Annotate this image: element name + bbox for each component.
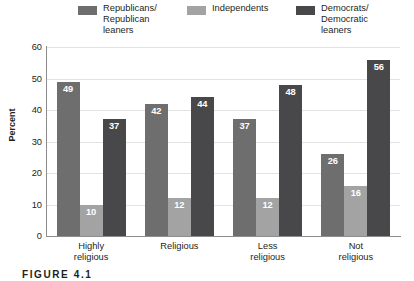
bar[interactable]: 49 [57,82,80,236]
bar[interactable]: 48 [279,85,302,236]
bar[interactable]: 26 [321,154,344,236]
chart-legend: Republicans/ Republican leaners Independ… [0,3,414,43]
bar-group: 371248 [224,47,312,236]
figure-container: Republicans/ Republican leaners Independ… [0,0,414,281]
bar[interactable]: 37 [103,119,126,236]
legend-swatch-democrats [296,6,315,15]
bar-value-label: 44 [191,99,214,109]
plot-area: 491037421244371248261656 [47,47,400,236]
bar[interactable]: 16 [344,186,367,236]
legend-label-republicans: Republicans/ Republican leaners [103,3,157,37]
bar-value-label: 12 [168,200,191,210]
x-axis-category-label: Less religious [224,241,312,263]
bar[interactable]: 37 [233,119,256,236]
bar[interactable]: 10 [80,205,103,237]
bar[interactable]: 44 [191,97,214,236]
y-axis-tick-label: 60 [2,42,42,52]
bar-group: 261656 [312,47,400,236]
y-axis-tick-label: 20 [2,168,42,178]
bar[interactable]: 12 [256,198,279,236]
bar-value-label: 26 [321,156,344,166]
legend-item-independents: Independents [187,3,268,15]
x-axis-category-label: Religious [135,241,223,252]
legend-item-republicans: Republicans/ Republican leaners [78,3,157,37]
legend-item-democrats: Democrats/ Democratic leaners [296,3,369,37]
bar-value-label: 16 [344,188,367,198]
legend-swatch-republicans [78,6,97,15]
bar-value-label: 12 [256,200,279,210]
bar[interactable]: 56 [367,60,390,236]
bar[interactable]: 42 [145,104,168,236]
y-axis-tick-label: 50 [2,74,42,84]
legend-label-democrats: Democrats/ Democratic leaners [321,3,369,37]
bar-value-label: 37 [103,121,126,131]
bar[interactable]: 12 [168,198,191,236]
y-axis-ticks: 0102030405060 [0,47,42,236]
bar-value-label: 56 [367,62,390,72]
y-axis-tick-label: 10 [2,200,42,210]
x-axis-line [46,236,401,237]
x-axis-category-label: Not religious [312,241,400,263]
legend-swatch-independents [187,6,206,15]
x-axis-category-label: Highly religious [47,241,135,263]
y-axis-tick-label: 40 [2,105,42,115]
bar-value-label: 49 [57,84,80,94]
bar-value-label: 37 [233,121,256,131]
y-axis-tick-label: 0 [2,231,42,241]
bar-value-label: 10 [80,207,103,217]
bar-group: 421244 [135,47,223,236]
figure-caption: FIGURE 4.1 [22,269,92,280]
bar-value-label: 48 [279,87,302,97]
legend-label-independents: Independents [212,3,268,14]
y-axis-tick-label: 30 [2,137,42,147]
bar-value-label: 42 [145,106,168,116]
bar-group: 491037 [47,47,135,236]
